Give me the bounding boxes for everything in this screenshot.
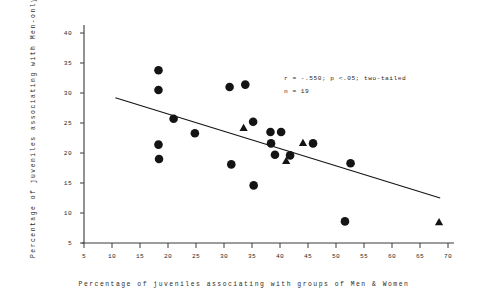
y-axis-title: Percentage of juveniles associating with… [30, 0, 37, 258]
y-tick-label: 10 [54, 210, 72, 217]
data-point-circle [191, 129, 200, 138]
x-tick-label: 10 [108, 253, 116, 260]
data-point-circle [249, 118, 258, 127]
data-point-circle [309, 139, 318, 148]
correlation-text: r = -.550; p <.05; two-tailed [284, 72, 406, 85]
sample-size-text: n = 19 [284, 85, 406, 98]
y-tick-label: 25 [54, 120, 72, 127]
x-tick-label: 45 [304, 253, 312, 260]
data-point-circle [346, 159, 355, 168]
statistics-annotation: r = -.550; p <.05; two-tailed n = 19 [284, 72, 406, 98]
regression-trendline [115, 98, 440, 198]
y-tick-label: 40 [54, 30, 72, 37]
plot-canvas [0, 0, 488, 300]
x-tick-label: 50 [332, 253, 340, 260]
data-point-circle [154, 66, 163, 75]
data-point-triangle [435, 218, 443, 225]
data-point-circle [154, 86, 163, 95]
y-tick-label: 35 [54, 60, 72, 67]
x-tick-label: 65 [416, 253, 424, 260]
data-point-circle [227, 160, 236, 169]
scatter-plot-figure: 5101520253035405101520253035404550556065… [0, 0, 488, 300]
x-tick-label: 5 [82, 253, 86, 260]
plot-area [0, 0, 488, 300]
data-point-circle [271, 151, 280, 160]
data-point-circle [241, 80, 250, 89]
y-tick-label: 15 [54, 180, 72, 187]
data-point-circle [169, 115, 178, 124]
y-tick-label: 30 [54, 90, 72, 97]
y-tick-label: 20 [54, 150, 72, 157]
x-tick-label: 15 [136, 253, 144, 260]
x-tick-label: 20 [164, 253, 172, 260]
x-tick-label: 40 [276, 253, 284, 260]
data-point-circle [154, 140, 163, 149]
y-tick-label: 5 [54, 240, 72, 247]
data-point-circle [225, 83, 234, 92]
x-tick-label: 35 [248, 253, 256, 260]
x-tick-label: 55 [360, 253, 368, 260]
x-axis-title: Percentage of juveniles associating with… [0, 281, 488, 288]
data-point-circle [277, 128, 286, 137]
data-point-circle [155, 155, 164, 164]
data-point-circle [266, 128, 275, 137]
data-point-circle [341, 217, 350, 226]
data-point-triangle [299, 139, 307, 146]
x-tick-label: 25 [192, 253, 200, 260]
data-point-circle [267, 139, 276, 148]
data-point-triangle [240, 124, 248, 131]
x-tick-label: 60 [388, 253, 396, 260]
x-tick-label: 70 [444, 253, 452, 260]
data-point-circle [249, 181, 258, 190]
x-tick-label: 30 [220, 253, 228, 260]
